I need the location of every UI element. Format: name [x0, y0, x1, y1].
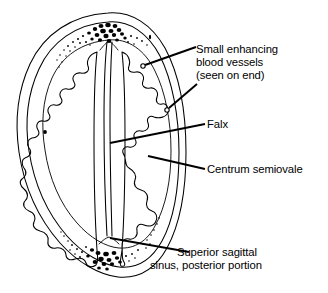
- falx-cerebri-right-edge: [110, 42, 112, 236]
- label-small-enhancing-blood-vessels: Small enhancing blood vessels (seen on e…: [196, 43, 278, 83]
- label-blood-vessels-line1: Small enhancing: [196, 43, 278, 55]
- label-falx: Falx: [207, 118, 228, 131]
- label-sinus-line2: sinus, posterior portion: [150, 259, 262, 272]
- brain-diagram-canvas: [0, 0, 328, 293]
- vessel-on-end-superior: [141, 64, 145, 68]
- dural-surface-outline: [43, 40, 171, 248]
- falx-cerebri-left-edge: [104, 42, 107, 236]
- left-periphery-marker-dot: [43, 130, 47, 134]
- leader-line-falx: [110, 124, 205, 143]
- label-centrum-semiovale: Centrum semiovale: [207, 163, 303, 176]
- brain-diagram-figure: Small enhancing blood vessels (seen on e…: [0, 0, 328, 293]
- label-superior-sagittal-sinus: Superior sagittal sinus, posterior porti…: [172, 246, 262, 272]
- label-blood-vessels-line2: blood vessels: [196, 56, 263, 68]
- skull-outer-outline: [17, 13, 186, 277]
- label-blood-vessels-line3: (seen on end): [196, 69, 264, 81]
- gyri-left-hemisphere: [20, 52, 97, 267]
- leader-line-blood-vessels-superior: [145, 47, 196, 65]
- label-sinus-line1: Superior sagittal: [177, 246, 257, 258]
- leader-line-centrum-semiovale: [148, 156, 205, 169]
- vessel-on-end-lateral: [165, 108, 169, 112]
